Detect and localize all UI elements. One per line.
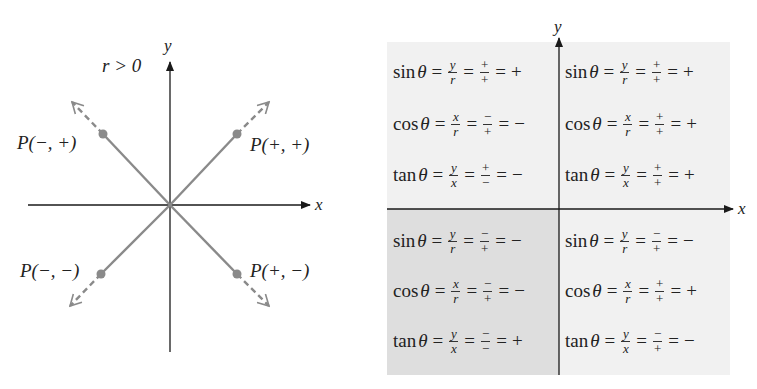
- equals: =: [668, 164, 679, 186]
- sign-fraction: +−: [481, 162, 490, 189]
- point-label-q3: P(−, −): [20, 260, 79, 282]
- sin-row: sinθ = yr = −+ = −: [565, 221, 694, 261]
- fn-name: tan: [565, 330, 588, 352]
- numerator: y: [621, 59, 629, 71]
- quadrant-iv: sinθ = yr = −+ = − cosθ = xr = ++ = + ta…: [559, 209, 730, 375]
- denominator: +: [652, 243, 661, 255]
- quadrant-i: sinθ = yr = ++ = + cosθ = xr = ++ = + ta…: [559, 42, 730, 209]
- equals: =: [464, 330, 475, 352]
- equals: =: [432, 230, 443, 252]
- point-label-q4: P(+, −): [250, 260, 309, 282]
- tan-row: tanθ = yx = +− = −: [393, 155, 523, 195]
- tan-row: tanθ = yx = −− = +: [393, 321, 523, 361]
- ratio-fraction: yx: [621, 162, 630, 189]
- equals: =: [635, 61, 646, 83]
- fn-name: sin: [393, 230, 415, 252]
- fn-name: sin: [393, 61, 415, 83]
- equals: =: [636, 330, 647, 352]
- equals: =: [433, 330, 444, 352]
- numerator: y: [450, 328, 458, 340]
- denominator: r: [452, 293, 459, 305]
- sign-fraction: −+: [480, 228, 489, 255]
- equals: =: [667, 61, 678, 83]
- equals: =: [670, 113, 681, 135]
- point-label-text: P(+, +): [250, 134, 309, 155]
- theta: θ: [418, 330, 427, 352]
- quadrant-ii: sinθ = yr = ++ = + cosθ = xr = −+ = − ta…: [387, 42, 559, 209]
- numerator: −: [483, 278, 492, 290]
- point-label-text: P(+, −): [250, 260, 309, 281]
- fn-name: sin: [565, 61, 587, 83]
- equals: =: [466, 280, 477, 302]
- theta: θ: [589, 230, 598, 252]
- denominator: +: [483, 293, 492, 305]
- sign-fraction: −+: [653, 328, 662, 355]
- sign-fraction: ++: [655, 111, 664, 138]
- ratio-fraction: xr: [623, 111, 632, 138]
- theta: θ: [590, 330, 599, 352]
- result-sign: −: [684, 330, 695, 352]
- cos-row: cosθ = xr = ++ = +: [565, 104, 697, 144]
- numerator: x: [452, 278, 460, 290]
- numerator: +: [480, 59, 489, 71]
- tan-row: tanθ = yx = ++ = +: [565, 155, 695, 195]
- ratio-fraction: yr: [448, 228, 457, 255]
- equals: =: [635, 230, 646, 252]
- ratio-fraction: yr: [620, 228, 629, 255]
- fn-name: cos: [393, 113, 418, 135]
- denominator: x: [622, 177, 630, 189]
- fn-name: tan: [565, 164, 588, 186]
- cos-row: cosθ = xr = ++ = +: [565, 271, 697, 311]
- point-q2: [99, 130, 108, 139]
- point-label-text: P(−, −): [20, 260, 79, 281]
- denominator: +: [480, 74, 489, 86]
- fn-name: cos: [565, 280, 590, 302]
- equals: =: [638, 280, 649, 302]
- result-sign: +: [683, 61, 694, 83]
- quadrant-iii: sinθ = yr = −+ = − cosθ = xr = −+ = − ta…: [387, 209, 559, 375]
- result-sign: −: [514, 280, 525, 302]
- sign-fraction: −+: [652, 228, 661, 255]
- numerator: +: [652, 59, 661, 71]
- fn-name: cos: [565, 113, 590, 135]
- cos-row: cosθ = xr = −+ = −: [393, 104, 525, 144]
- numerator: −: [653, 328, 662, 340]
- equals: =: [433, 164, 444, 186]
- fn-name: tan: [393, 330, 416, 352]
- result-sign: −: [512, 164, 523, 186]
- ratio-fraction: xr: [623, 278, 632, 305]
- denominator: +: [655, 126, 664, 138]
- sign-fraction: −+: [483, 278, 492, 305]
- equals: =: [667, 230, 678, 252]
- equals: =: [496, 164, 507, 186]
- numerator: +: [481, 162, 490, 174]
- tan-row: tanθ = yx = −+ = −: [565, 321, 695, 361]
- numerator: +: [653, 162, 662, 174]
- equals: =: [498, 113, 509, 135]
- denominator: +: [653, 343, 662, 355]
- equals: =: [463, 61, 474, 83]
- numerator: y: [450, 162, 458, 174]
- fn-name: tan: [393, 164, 416, 186]
- point-q3: [97, 270, 106, 279]
- r-condition-label: r > 0: [102, 55, 141, 77]
- theta: θ: [592, 113, 601, 135]
- equals: =: [435, 280, 446, 302]
- ratio-fraction: xr: [451, 111, 460, 138]
- denominator: r: [449, 243, 456, 255]
- sign-fraction: −−: [481, 328, 490, 355]
- equals: =: [498, 280, 509, 302]
- numerator: y: [621, 228, 629, 240]
- denominator: +: [483, 126, 492, 138]
- numerator: −: [481, 328, 490, 340]
- equals: =: [670, 280, 681, 302]
- ratio-fraction: yr: [448, 59, 457, 86]
- x-axis-label: x: [315, 195, 323, 215]
- sign-fraction: ++: [655, 278, 664, 305]
- cos-row: cosθ = xr = −+ = −: [393, 271, 525, 311]
- equals: =: [466, 113, 477, 135]
- equals: =: [495, 230, 506, 252]
- denominator: +: [652, 74, 661, 86]
- denominator: −: [481, 343, 490, 355]
- denominator: r: [624, 126, 631, 138]
